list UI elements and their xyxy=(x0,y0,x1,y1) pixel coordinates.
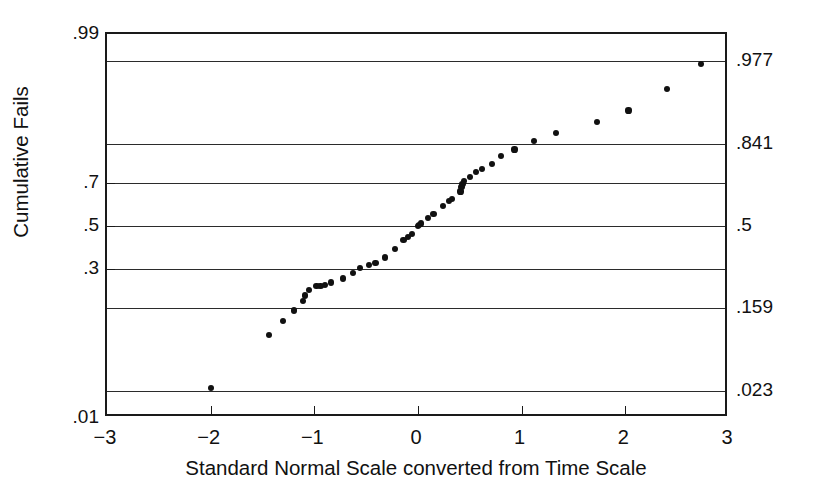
y-axis-right-label: .977 xyxy=(736,50,773,69)
x-axis-title: Standard Normal Scale converted from Tim… xyxy=(105,456,727,480)
data-point xyxy=(306,287,312,293)
y-axis-right-label: .5 xyxy=(736,215,752,234)
data-point xyxy=(440,203,446,209)
data-point xyxy=(409,231,415,237)
gridline xyxy=(107,144,725,145)
data-point xyxy=(461,178,467,184)
y-axis-left-label: .99 xyxy=(73,23,99,42)
x-axis-labels: −3−2−10123 xyxy=(0,424,825,452)
plot-area xyxy=(105,32,727,416)
data-point xyxy=(322,282,328,288)
gridline xyxy=(107,269,725,270)
data-point xyxy=(430,211,436,217)
x-axis-label: 1 xyxy=(490,424,550,450)
data-point xyxy=(291,307,297,313)
data-point xyxy=(594,119,600,125)
data-point xyxy=(664,86,670,92)
x-axis-label: 3 xyxy=(697,424,757,450)
x-axis-label: −1 xyxy=(282,424,342,450)
x-axis-label: −3 xyxy=(75,424,135,450)
y-axis-right-labels: .977.841.5.159.023 xyxy=(736,0,825,495)
data-point xyxy=(531,138,537,144)
gridline xyxy=(107,308,725,309)
x-axis-label: 2 xyxy=(593,424,653,450)
data-point xyxy=(372,260,378,266)
data-point xyxy=(489,161,495,167)
gridline xyxy=(107,391,725,392)
data-point xyxy=(328,279,334,285)
y-axis-left-labels: .99.7.5.3.01 xyxy=(0,0,99,495)
data-point xyxy=(498,153,504,159)
data-point xyxy=(511,146,517,152)
data-point xyxy=(340,275,346,281)
data-point xyxy=(208,385,214,391)
data-point xyxy=(382,254,388,260)
gridline xyxy=(107,183,725,184)
data-point xyxy=(698,61,704,67)
y-axis-left-label: .7 xyxy=(83,172,99,191)
x-axis-tick xyxy=(211,406,212,415)
data-point xyxy=(392,246,398,252)
y-axis-tick xyxy=(106,183,115,184)
data-point xyxy=(350,270,356,276)
data-point xyxy=(553,130,559,136)
y-axis-left-label: .3 xyxy=(83,258,99,277)
y-axis-tick xyxy=(106,269,115,270)
data-point xyxy=(449,196,455,202)
x-axis-tick xyxy=(522,406,523,415)
data-point xyxy=(302,292,308,298)
data-point xyxy=(625,107,631,113)
data-point xyxy=(467,174,473,180)
chart-root: Cumulative Fails .99.7.5.3.01 .977.841.5… xyxy=(0,0,825,495)
y-axis-left-label: .5 xyxy=(83,215,99,234)
y-axis-right-label: .841 xyxy=(736,133,773,152)
gridline xyxy=(107,61,725,62)
y-axis-right-label: .023 xyxy=(736,380,773,399)
x-axis-tick xyxy=(418,406,419,415)
data-point xyxy=(418,220,424,226)
x-axis-tick xyxy=(625,406,626,415)
x-axis-label: −2 xyxy=(179,424,239,450)
x-axis-label: 0 xyxy=(386,424,446,450)
y-axis-tick xyxy=(106,226,115,227)
x-axis-tick xyxy=(314,406,315,415)
y-axis-right-label: .159 xyxy=(736,297,773,316)
data-point xyxy=(280,318,286,324)
data-point xyxy=(479,166,485,172)
data-point xyxy=(266,332,272,338)
